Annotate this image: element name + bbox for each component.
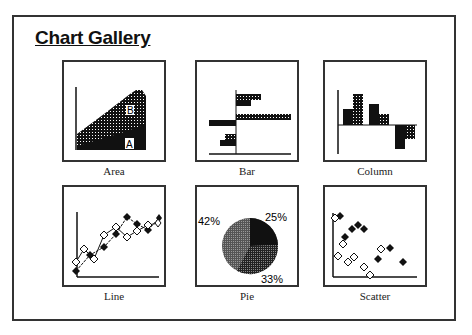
- bar-chart-thumbnail[interactable]: [195, 60, 299, 162]
- series-label-b: B: [127, 105, 134, 116]
- area-chart-icon: B A: [64, 62, 164, 160]
- chart-caption: Bar: [195, 165, 299, 177]
- page-title: Chart Gallery: [35, 27, 150, 49]
- line-chart-thumbnail[interactable]: [62, 185, 166, 287]
- column-chart-thumbnail[interactable]: [323, 60, 427, 162]
- scatter-chart-thumbnail[interactable]: [323, 185, 427, 287]
- chart-tile-scatter[interactable]: Scatter: [323, 185, 427, 302]
- pie-label-25: 25%: [265, 211, 287, 223]
- chart-caption: Column: [323, 165, 427, 177]
- chart-caption: Scatter: [323, 290, 427, 302]
- area-chart-thumbnail[interactable]: B A: [62, 60, 166, 162]
- chart-tile-area[interactable]: B A Area: [62, 60, 166, 177]
- line-chart-icon: [64, 187, 164, 285]
- chart-tile-line[interactable]: Line: [62, 185, 166, 302]
- chart-tile-bar[interactable]: Bar: [195, 60, 299, 177]
- chart-tile-pie[interactable]: 42% 25% 33% Pie: [195, 185, 299, 302]
- series-label-a: A: [126, 139, 133, 150]
- pie-label-33: 33%: [261, 273, 283, 285]
- chart-tile-column[interactable]: Column: [323, 60, 427, 177]
- chart-caption: Area: [62, 165, 166, 177]
- column-chart-icon: [325, 62, 425, 160]
- scatter-chart-icon: [325, 187, 425, 285]
- chart-caption: Pie: [195, 290, 299, 302]
- bar-chart-icon: [197, 62, 297, 160]
- pie-label-42: 42%: [198, 215, 220, 227]
- pie-chart-thumbnail[interactable]: 42% 25% 33%: [195, 185, 299, 287]
- chart-caption: Line: [62, 290, 166, 302]
- pie-chart-icon: 42% 25% 33%: [197, 187, 297, 285]
